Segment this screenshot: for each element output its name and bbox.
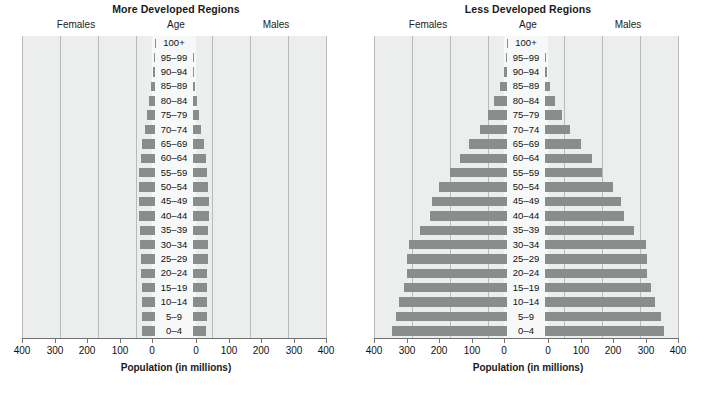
age-group-label: 20–24 — [161, 267, 187, 279]
bar-male — [193, 67, 194, 76]
x-axis-tick — [439, 338, 440, 343]
age-group-label: 65–69 — [161, 138, 187, 150]
x-axis-line-right — [374, 338, 678, 339]
bar-male — [193, 297, 207, 306]
bar-female — [407, 254, 507, 263]
bar-male — [193, 226, 208, 235]
pyramid-row: 35–39 — [374, 223, 678, 237]
population-pyramid-figure: More Developed Regions Females Age Males… — [0, 0, 704, 396]
bar-female — [139, 197, 155, 206]
plot-area-less-developed: 100+95–9990–9485–8980–8475–7970–7465–696… — [374, 36, 678, 338]
bar-male — [193, 139, 204, 148]
x-axis-tick — [152, 338, 153, 343]
age-group-label: 0–4 — [166, 325, 182, 337]
pyramid-row: 45–49 — [374, 194, 678, 208]
header-females-left: Females — [0, 19, 152, 30]
pyramid-row: 15–19 — [22, 280, 326, 294]
pyramid-row: 80–84 — [22, 94, 326, 108]
age-group-label: 95–99 — [161, 52, 187, 64]
bar-female — [494, 96, 507, 105]
bar-male — [193, 312, 207, 321]
bar-female — [139, 182, 155, 191]
pyramid-row: 65–69 — [374, 137, 678, 151]
panel-title-more-developed: More Developed Regions — [0, 3, 352, 15]
age-group-label: 60–64 — [161, 152, 187, 164]
pyramid-row: 60–64 — [22, 151, 326, 165]
age-group-label: 5–9 — [166, 311, 182, 323]
age-group-label: 55–59 — [513, 167, 539, 179]
bar-female — [409, 240, 507, 249]
pyramid-row: 85–89 — [22, 79, 326, 93]
bar-female — [407, 269, 507, 278]
x-axis-tick — [407, 338, 408, 343]
x-axis-tick — [87, 338, 88, 343]
pyramid-row: 10–14 — [374, 295, 678, 309]
pyramid-row: 40–44 — [22, 209, 326, 223]
bar-male — [545, 312, 661, 321]
x-axis-tick — [120, 338, 121, 343]
x-axis-title-right: Population (in millions) — [352, 362, 704, 373]
age-group-label: 30–34 — [161, 239, 187, 251]
pyramid-row: 20–24 — [374, 266, 678, 280]
age-group-label: 10–14 — [513, 296, 539, 308]
age-group-label: 95–99 — [513, 52, 539, 64]
bar-male — [193, 96, 197, 105]
pyramid-rows: 100+95–9990–9485–8980–8475–7970–7465–696… — [22, 36, 326, 338]
pyramid-row: 25–29 — [374, 252, 678, 266]
pyramid-row: 30–34 — [22, 237, 326, 251]
x-axis-tick-label: 400 — [306, 345, 346, 356]
bar-male — [545, 139, 581, 148]
bar-male — [545, 240, 646, 249]
bar-female — [139, 211, 155, 220]
age-group-label: 25–29 — [513, 253, 539, 265]
age-group-label: 40–44 — [161, 210, 187, 222]
x-axis-tick — [374, 338, 375, 343]
bar-female — [504, 67, 507, 76]
pyramid-row: 55–59 — [22, 165, 326, 179]
pyramid-row: 5–9 — [374, 309, 678, 323]
bar-male — [545, 168, 602, 177]
bar-male — [545, 297, 655, 306]
bar-male — [193, 240, 208, 249]
pyramid-row: 60–64 — [374, 151, 678, 165]
age-group-label: 75–79 — [513, 109, 539, 121]
bar-female — [145, 125, 155, 134]
bar-female — [420, 226, 507, 235]
age-group-label: 35–39 — [161, 224, 187, 236]
bar-male — [545, 96, 555, 105]
pyramid-row: 40–44 — [374, 209, 678, 223]
pyramid-rows: 100+95–9990–9485–8980–8475–7970–7465–696… — [374, 36, 678, 338]
age-group-label: 30–34 — [513, 239, 539, 251]
bar-male — [545, 53, 546, 62]
bar-female — [450, 168, 507, 177]
pyramid-row: 100+ — [374, 36, 678, 50]
chart-panel-less-developed: Less Developed Regions Females Age Males… — [352, 0, 704, 396]
pyramid-row: 30–34 — [374, 237, 678, 251]
pyramid-row: 35–39 — [22, 223, 326, 237]
bar-male — [545, 110, 562, 119]
bar-male — [545, 82, 550, 91]
bar-female — [500, 82, 507, 91]
age-group-label: 45–49 — [513, 195, 539, 207]
bar-female — [151, 82, 155, 91]
pyramid-row: 50–54 — [22, 180, 326, 194]
pyramid-row: 95–99 — [374, 50, 678, 64]
bar-male — [545, 211, 624, 220]
pyramid-row: 15–19 — [374, 280, 678, 294]
pyramid-row: 0–4 — [374, 324, 678, 338]
age-group-label: 50–54 — [513, 181, 539, 193]
panel-title-less-developed: Less Developed Regions — [352, 3, 704, 15]
x-axis-tick — [504, 338, 505, 343]
x-axis-tick — [326, 338, 327, 343]
pyramid-row: 10–14 — [22, 295, 326, 309]
age-group-label: 5–9 — [518, 311, 534, 323]
plot-area-more-developed: 100+95–9990–9485–8980–8475–7970–7465–696… — [22, 36, 326, 338]
bar-male — [193, 182, 208, 191]
bar-female — [469, 139, 507, 148]
bar-female — [154, 53, 155, 62]
pyramid-row: 80–84 — [374, 94, 678, 108]
pyramid-row: 90–94 — [22, 65, 326, 79]
bar-female — [141, 269, 155, 278]
x-axis-tick — [581, 338, 582, 343]
age-group-label: 35–39 — [513, 224, 539, 236]
